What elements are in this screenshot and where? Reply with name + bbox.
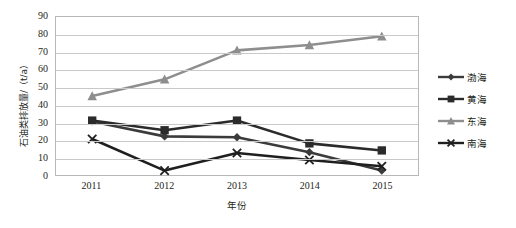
legend-item-1[interactable]: 渤海 [437, 66, 513, 88]
legend-item-2[interactable]: 黄海 [437, 88, 513, 110]
y-axis-tick-labels: 9080706050403020100 [18, 16, 48, 176]
gridline [56, 35, 418, 36]
x-tick-label: 2013 [227, 180, 247, 192]
legend-marker-diamond-icon [437, 71, 465, 83]
x-tick-label: 2012 [154, 180, 174, 192]
y-tick-label: 20 [18, 135, 48, 145]
legend-item-4[interactable]: 南海 [437, 132, 513, 154]
legend-marker-x-icon [437, 137, 465, 149]
gridline [56, 70, 418, 71]
chart-legend: 渤海黄海东海南海 [437, 66, 513, 154]
series-2 [87, 31, 386, 100]
legend-item-3[interactable]: 东海 [437, 110, 513, 132]
gridline [56, 141, 418, 142]
legend-label: 东海 [465, 114, 487, 128]
line-chart: 石油类排放量/（t/a） 9080706050403020100 2011201… [0, 0, 516, 228]
y-tick-label: 70 [18, 47, 48, 57]
gridline [56, 159, 418, 160]
y-tick-label: 0 [18, 171, 48, 181]
y-tick-label: 30 [18, 118, 48, 128]
x-axis-title: 年份 [55, 198, 419, 212]
x-axis-tick-labels: 20112012201320142015 [55, 180, 419, 194]
y-tick-label: 60 [18, 64, 48, 74]
y-tick-label: 80 [18, 29, 48, 39]
legend-marker-triangle-icon [437, 115, 465, 127]
x-tick-label: 2011 [82, 180, 102, 192]
y-tick-label: 90 [18, 11, 48, 21]
legend-label: 黄海 [465, 92, 487, 106]
series-layer [56, 17, 418, 175]
gridline [56, 106, 418, 107]
y-tick-label: 50 [18, 82, 48, 92]
x-tick-label: 2015 [373, 180, 393, 192]
legend-label: 渤海 [465, 70, 487, 84]
gridline [56, 88, 418, 89]
y-tick-label: 10 [18, 153, 48, 163]
gridline [56, 53, 418, 54]
legend-label: 南海 [465, 136, 487, 150]
plot-area [55, 16, 419, 176]
legend-marker-square-icon [437, 93, 465, 105]
y-tick-label: 40 [18, 100, 48, 110]
gridline [56, 124, 418, 125]
x-tick-label: 2014 [300, 180, 320, 192]
